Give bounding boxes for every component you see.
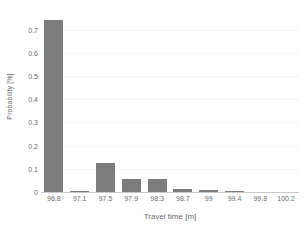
x-axis-tick-label: 97.5	[93, 195, 119, 202]
bar	[148, 179, 167, 192]
bar	[173, 189, 192, 192]
bar-slot	[196, 11, 222, 192]
y-axis-tick-labels: 00.10.20.30.40.50.60.7	[14, 0, 40, 200]
x-axis-tick-label: 100.2	[273, 195, 299, 202]
bar-slot	[170, 11, 196, 192]
x-axis-tick-label: 96.8	[41, 195, 67, 202]
x-axis-tick-label: 97.1	[67, 195, 93, 202]
x-axis-tick-label: 99.4	[222, 195, 248, 202]
y-axis-tick-label: 0.6	[28, 49, 38, 56]
bar-slot	[247, 11, 273, 192]
y-axis-tick-label: 0.3	[28, 119, 38, 126]
y-axis-tick-label: 0.4	[28, 96, 38, 103]
bar-series	[41, 11, 299, 192]
y-axis-tick-label: 0.2	[28, 142, 38, 149]
y-axis-tick-label: 0.5	[28, 72, 38, 79]
x-axis-tick-label: 97.9	[118, 195, 144, 202]
y-axis-tick-label: 0.1	[28, 165, 38, 172]
bar	[199, 190, 218, 192]
bar-slot	[144, 11, 170, 192]
y-axis-tick-label: 0	[34, 189, 38, 196]
bar-slot	[41, 11, 67, 192]
bar-slot	[222, 11, 248, 192]
x-axis-tick-label: 99.8	[247, 195, 273, 202]
x-axis-tick-label: 99	[196, 195, 222, 202]
bar	[122, 179, 141, 192]
x-axis-tick-label: 98.7	[170, 195, 196, 202]
y-axis-tick-label: 0.7	[28, 26, 38, 33]
bar-slot	[93, 11, 119, 192]
bar-slot	[118, 11, 144, 192]
bar	[44, 20, 63, 192]
bar	[96, 163, 115, 192]
x-axis-tick-labels: 96.897.197.597.998.398.79999.499.8100.2	[41, 195, 299, 202]
y-axis-title-text: Probability [%]	[6, 73, 13, 119]
plot-area	[41, 11, 299, 193]
x-axis-tick-label: 98.3	[144, 195, 170, 202]
bar-slot	[67, 11, 93, 192]
histogram-figure: Probability [%] 00.10.20.30.40.50.60.7 9…	[0, 0, 307, 237]
x-axis-title: Travel time [m]	[41, 212, 299, 221]
bar-slot	[273, 11, 299, 192]
bar	[225, 191, 244, 192]
bar	[70, 191, 89, 192]
